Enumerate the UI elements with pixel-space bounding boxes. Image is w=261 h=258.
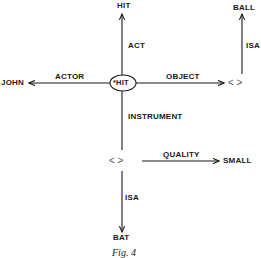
node-object-placeholder: < > <box>228 78 242 88</box>
node-center-label: *HIT <box>113 79 129 87</box>
node-small-label: SMALL <box>223 157 252 165</box>
node-john-label: JOHN <box>1 79 24 87</box>
edge-instrument-isa-label: ISA <box>125 194 139 202</box>
node-ball-label: BALL <box>233 4 255 12</box>
edge-object-isa-label: ISA <box>246 42 260 50</box>
edge-quality-label: QUALITY <box>163 151 200 159</box>
edge-actor-label: ACTOR <box>55 73 84 81</box>
edge-object-label: OBJECT <box>166 73 200 81</box>
node-hit-label: HIT <box>117 2 131 10</box>
figure-caption: Fig. 4 <box>112 248 136 258</box>
node-instrument-placeholder: < > <box>109 156 123 166</box>
edge-act-label: ACT <box>128 42 145 50</box>
edge-instrument-label: INSTRUMENT <box>128 113 182 121</box>
node-bat-label: BAT <box>113 234 129 242</box>
